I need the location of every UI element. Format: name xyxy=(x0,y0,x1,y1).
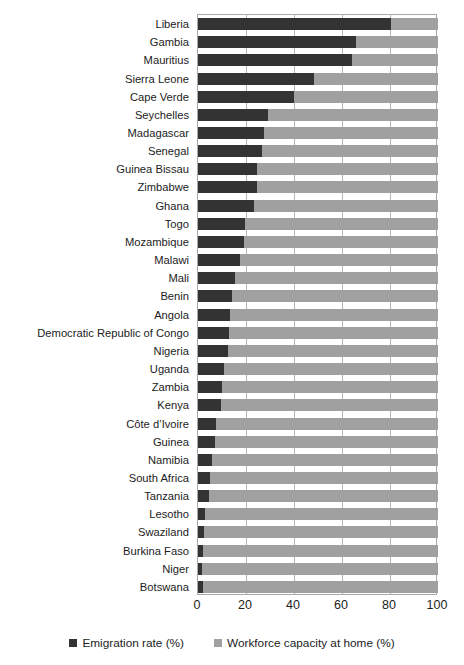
legend-item[interactable]: Workforce capacity at home (%) xyxy=(214,636,395,650)
bar-segment-workforce-capacity-at-home[interactable] xyxy=(210,472,438,484)
bar-row[interactable] xyxy=(198,18,438,30)
bar-row[interactable] xyxy=(198,91,438,103)
bar-row[interactable] xyxy=(198,327,438,339)
bar-segment-workforce-capacity-at-home[interactable] xyxy=(314,73,438,85)
bar-row[interactable] xyxy=(198,309,438,321)
bar-segment-workforce-capacity-at-home[interactable] xyxy=(212,454,438,466)
bar-row[interactable] xyxy=(198,145,438,157)
bar-segment-emigration-rate[interactable] xyxy=(198,290,232,302)
bar-segment-workforce-capacity-at-home[interactable] xyxy=(224,363,438,375)
bar-segment-workforce-capacity-at-home[interactable] xyxy=(202,563,438,575)
bar-segment-emigration-rate[interactable] xyxy=(198,436,215,448)
bar-row[interactable] xyxy=(198,36,438,48)
bar-segment-emigration-rate[interactable] xyxy=(198,218,245,230)
bar-segment-emigration-rate[interactable] xyxy=(198,381,222,393)
bar-segment-workforce-capacity-at-home[interactable] xyxy=(264,127,438,139)
bar-row[interactable] xyxy=(198,490,438,502)
bar-segment-emigration-rate[interactable] xyxy=(198,272,235,284)
bar-segment-workforce-capacity-at-home[interactable] xyxy=(268,109,438,121)
bar-segment-emigration-rate[interactable] xyxy=(198,490,209,502)
bar-row[interactable] xyxy=(198,381,438,393)
bar-segment-emigration-rate[interactable] xyxy=(198,36,356,48)
category-label: Madagascar xyxy=(127,126,189,140)
bar-row[interactable] xyxy=(198,454,438,466)
bar-segment-workforce-capacity-at-home[interactable] xyxy=(204,526,438,538)
bar-row[interactable] xyxy=(198,399,438,411)
bar-segment-workforce-capacity-at-home[interactable] xyxy=(352,54,438,66)
x-tick-label: 60 xyxy=(319,598,363,612)
bar-segment-emigration-rate[interactable] xyxy=(198,200,254,212)
bar-segment-workforce-capacity-at-home[interactable] xyxy=(205,508,438,520)
category-label: Senegal xyxy=(148,144,189,158)
bar-segment-emigration-rate[interactable] xyxy=(198,236,244,248)
bar-segment-emigration-rate[interactable] xyxy=(198,309,230,321)
bar-segment-emigration-rate[interactable] xyxy=(198,254,240,266)
bar-segment-workforce-capacity-at-home[interactable] xyxy=(229,327,438,339)
bar-segment-workforce-capacity-at-home[interactable] xyxy=(230,309,438,321)
bar-segment-workforce-capacity-at-home[interactable] xyxy=(209,490,438,502)
bar-row[interactable] xyxy=(198,581,438,593)
bar-segment-emigration-rate[interactable] xyxy=(198,363,224,375)
bar-segment-emigration-rate[interactable] xyxy=(198,127,264,139)
legend-item[interactable]: Emigration rate (%) xyxy=(69,636,184,650)
bar-segment-emigration-rate[interactable] xyxy=(198,418,216,430)
bar-row[interactable] xyxy=(198,345,438,357)
bar-row[interactable] xyxy=(198,54,438,66)
bar-segment-workforce-capacity-at-home[interactable] xyxy=(221,399,438,411)
bar-row[interactable] xyxy=(198,163,438,175)
category-label: Malawi xyxy=(154,253,189,267)
bar-segment-workforce-capacity-at-home[interactable] xyxy=(245,218,438,230)
bar-segment-emigration-rate[interactable] xyxy=(198,91,294,103)
bar-segment-workforce-capacity-at-home[interactable] xyxy=(216,418,438,430)
bar-segment-emigration-rate[interactable] xyxy=(198,181,257,193)
bar-segment-workforce-capacity-at-home[interactable] xyxy=(391,18,438,30)
bar-row[interactable] xyxy=(198,272,438,284)
bar-segment-emigration-rate[interactable] xyxy=(198,18,391,30)
bar-row[interactable] xyxy=(198,181,438,193)
bar-segment-workforce-capacity-at-home[interactable] xyxy=(235,272,438,284)
x-axis-tick-labels: 020406080100 xyxy=(0,598,464,616)
bar-segment-emigration-rate[interactable] xyxy=(198,472,210,484)
bar-segment-workforce-capacity-at-home[interactable] xyxy=(240,254,438,266)
bar-segment-workforce-capacity-at-home[interactable] xyxy=(232,290,438,302)
bar-row[interactable] xyxy=(198,472,438,484)
bar-segment-workforce-capacity-at-home[interactable] xyxy=(203,581,438,593)
bar-row[interactable] xyxy=(198,290,438,302)
bar-segment-emigration-rate[interactable] xyxy=(198,54,352,66)
bar-row[interactable] xyxy=(198,508,438,520)
bar-segment-emigration-rate[interactable] xyxy=(198,109,268,121)
bar-segment-workforce-capacity-at-home[interactable] xyxy=(257,163,438,175)
bar-segment-emigration-rate[interactable] xyxy=(198,163,257,175)
bar-row[interactable] xyxy=(198,545,438,557)
bar-segment-workforce-capacity-at-home[interactable] xyxy=(257,181,438,193)
bar-row[interactable] xyxy=(198,363,438,375)
bar-row[interactable] xyxy=(198,526,438,538)
bar-segment-workforce-capacity-at-home[interactable] xyxy=(254,200,438,212)
bar-segment-emigration-rate[interactable] xyxy=(198,327,229,339)
bar-row[interactable] xyxy=(198,200,438,212)
bar-row[interactable] xyxy=(198,436,438,448)
bar-segment-emigration-rate[interactable] xyxy=(198,73,314,85)
category-label: Gambia xyxy=(150,35,189,49)
bar-segment-workforce-capacity-at-home[interactable] xyxy=(222,381,438,393)
bar-row[interactable] xyxy=(198,73,438,85)
bar-segment-workforce-capacity-at-home[interactable] xyxy=(215,436,438,448)
bar-row[interactable] xyxy=(198,236,438,248)
bar-segment-workforce-capacity-at-home[interactable] xyxy=(228,345,438,357)
bar-segment-workforce-capacity-at-home[interactable] xyxy=(262,145,438,157)
bar-segment-workforce-capacity-at-home[interactable] xyxy=(294,91,438,103)
bar-segment-workforce-capacity-at-home[interactable] xyxy=(356,36,438,48)
bar-row[interactable] xyxy=(198,127,438,139)
bar-segment-emigration-rate[interactable] xyxy=(198,145,262,157)
bar-segment-workforce-capacity-at-home[interactable] xyxy=(203,545,438,557)
bar-segment-workforce-capacity-at-home[interactable] xyxy=(244,236,438,248)
bar-row[interactable] xyxy=(198,418,438,430)
bar-row[interactable] xyxy=(198,218,438,230)
bar-segment-emigration-rate[interactable] xyxy=(198,345,228,357)
bar-row[interactable] xyxy=(198,563,438,575)
bar-row[interactable] xyxy=(198,254,438,266)
bar-segment-emigration-rate[interactable] xyxy=(198,399,221,411)
bar-row[interactable] xyxy=(198,109,438,121)
bar-segment-emigration-rate[interactable] xyxy=(198,508,205,520)
bar-segment-emigration-rate[interactable] xyxy=(198,454,212,466)
